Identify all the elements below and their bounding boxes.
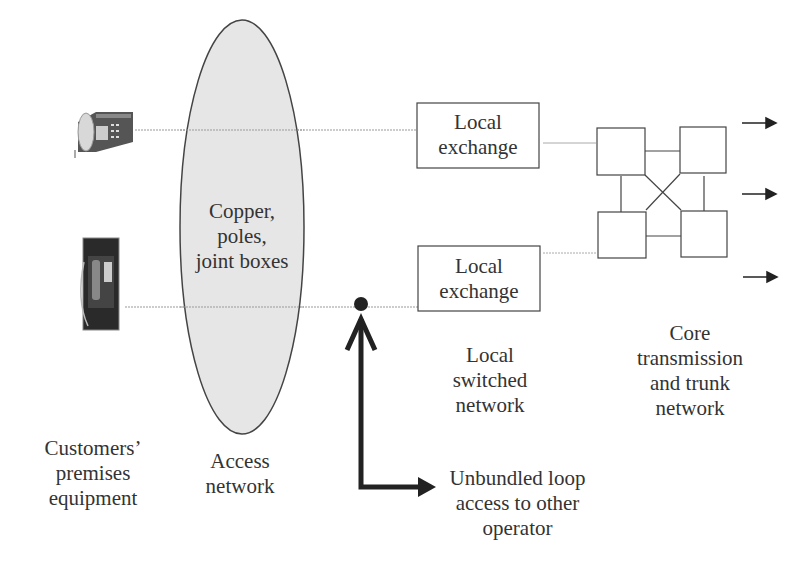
label-line: premises bbox=[28, 461, 158, 486]
local-switched-network-label: Local switched network bbox=[440, 343, 540, 418]
label-line: Local bbox=[440, 343, 540, 368]
exchange-line: Local bbox=[417, 110, 539, 135]
label-line: network bbox=[190, 474, 290, 499]
unbundled-loop-label: Unbundled loop access to other operator bbox=[440, 466, 595, 541]
ellipse-label-line: poles, bbox=[184, 224, 300, 249]
label-line: network bbox=[620, 396, 760, 421]
exchange-line: Local bbox=[418, 254, 540, 279]
core-mesh bbox=[597, 127, 727, 258]
ellipse-label-line: joint boxes bbox=[184, 249, 300, 274]
exchange-line: exchange bbox=[417, 135, 539, 160]
local-exchange-top-label: Local exchange bbox=[417, 110, 539, 160]
customers-premises-label: Customers’ premises equipment bbox=[28, 436, 158, 511]
ellipse-label-line: Copper, bbox=[184, 199, 300, 224]
label-line: access to other bbox=[440, 491, 595, 516]
unbundled-point bbox=[354, 297, 368, 311]
label-line: and trunk bbox=[620, 371, 760, 396]
label-line: Core bbox=[620, 321, 760, 346]
label-line: transmission bbox=[620, 346, 760, 371]
unbundled-arrow bbox=[347, 319, 420, 487]
outgoing-arrows bbox=[742, 118, 777, 282]
payphone-icon bbox=[81, 238, 119, 330]
label-line: Customers’ bbox=[28, 436, 158, 461]
access-network-label: Access network bbox=[190, 449, 290, 499]
desk-telephone-icon bbox=[75, 112, 133, 158]
local-exchange-bottom-label: Local exchange bbox=[418, 254, 540, 304]
label-line: operator bbox=[440, 516, 595, 541]
label-line: Unbundled loop bbox=[440, 466, 595, 491]
label-line: switched bbox=[440, 368, 540, 393]
label-line: equipment bbox=[28, 486, 158, 511]
exchange-line: exchange bbox=[418, 279, 540, 304]
label-line: Access bbox=[190, 449, 290, 474]
ellipse-label: Copper, poles, joint boxes bbox=[184, 199, 300, 274]
label-line: network bbox=[440, 393, 540, 418]
core-network-label: Core transmission and trunk network bbox=[620, 321, 760, 421]
